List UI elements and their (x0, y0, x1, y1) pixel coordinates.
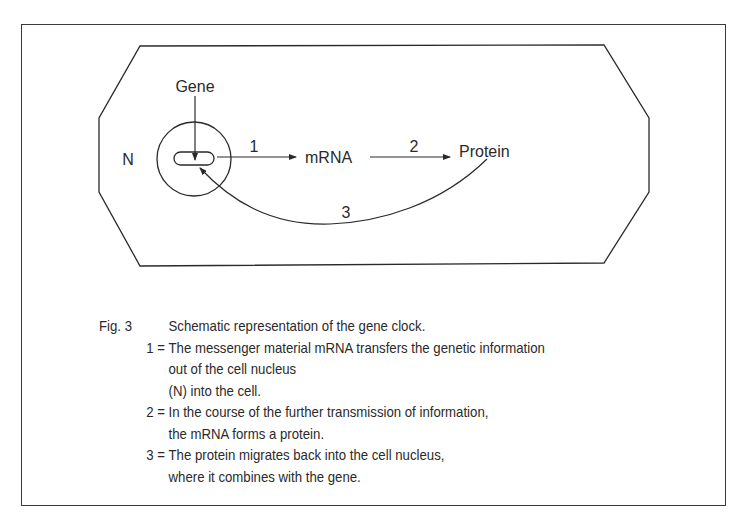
step-3-label: 3 (342, 204, 351, 221)
nucleus-label: N (122, 151, 134, 168)
item-1-number: 1 = (99, 337, 169, 359)
protein-label: Protein (459, 143, 510, 160)
item-2-number: 2 = (99, 401, 169, 423)
item-3-line-1: The protein migrates back into the cell … (169, 444, 445, 466)
item-3-line-2: where it combines with the gene. (169, 466, 361, 488)
figure-caption: Fig. 3 Schematic representation of the g… (99, 315, 545, 487)
item-1-line-1: The messenger material mRNA transfers th… (169, 337, 545, 359)
item-2-line-2: the mRNA forms a protein. (169, 423, 325, 445)
gene-oval (174, 152, 214, 165)
nucleus-circle (157, 122, 231, 196)
mrna-label: mRNA (305, 149, 352, 166)
item-1-line-2: out of the cell nucleus (169, 358, 297, 380)
figure-number: Fig. 3 (99, 315, 169, 337)
item-1-line-3: (N) into the cell. (169, 380, 261, 402)
caption-title: Schematic representation of the gene clo… (169, 315, 426, 337)
gene-label: Gene (175, 78, 214, 95)
step-1-label: 1 (250, 138, 259, 155)
item-3-number: 3 = (99, 444, 169, 466)
step-2-label: 2 (410, 138, 419, 155)
item-2-line-1: In the course of the further transmissio… (169, 401, 489, 423)
